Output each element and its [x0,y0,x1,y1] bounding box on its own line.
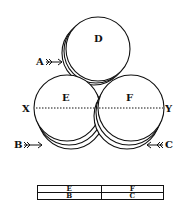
label-c: C [165,140,173,150]
table-cell: C [101,193,164,199]
correspondence-table: E F B C [37,185,164,200]
label-a: A [36,57,44,67]
arrow-a-icon [46,59,62,65]
label-e: E [62,93,70,103]
label-x: X [22,104,30,114]
label-f: F [126,93,133,103]
arrow-c-icon [147,142,163,148]
table-cell: B [38,193,101,199]
circle-d [66,17,130,81]
label-y: Y [165,104,172,114]
arrow-b-icon [24,142,42,148]
label-b: B [14,140,22,150]
label-d: D [94,34,103,44]
